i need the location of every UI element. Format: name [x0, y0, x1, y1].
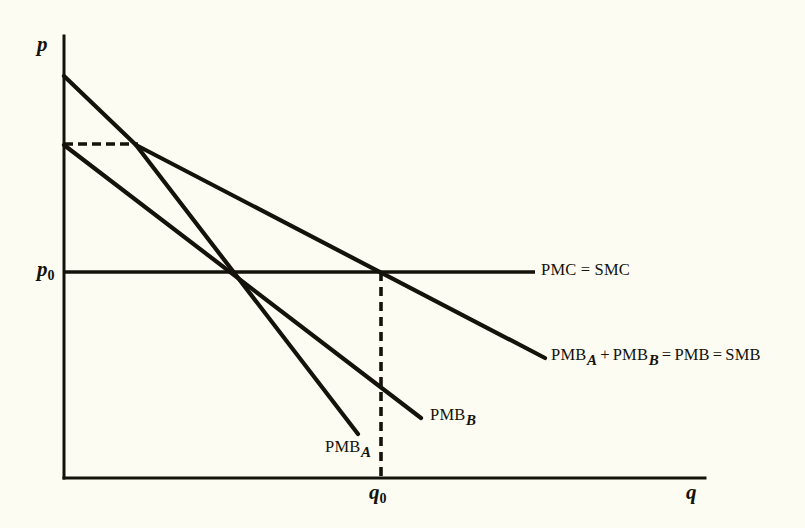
- pmb-a-main: PMB: [325, 437, 360, 456]
- curve-label-pmc-smc: PMC = SMC: [541, 262, 630, 279]
- q0-subscript: 0: [380, 491, 387, 506]
- sum-pmb-a-main: PMB: [551, 345, 586, 364]
- sum-smb-text: SMB: [725, 345, 760, 364]
- diagram-canvas: [0, 0, 805, 528]
- curve-label-pmb-a: PMBA: [325, 439, 371, 460]
- x-axis-label-text: q: [686, 480, 697, 504]
- p0-main: p: [37, 257, 48, 281]
- sum-equals-1: =: [659, 345, 675, 364]
- pmb-a-subscript: A: [360, 444, 371, 460]
- y-axis-label-text: p: [37, 32, 48, 56]
- curve-pmb-a: [136, 145, 358, 434]
- curve-label-pmb-b: PMBB: [430, 407, 476, 428]
- sum-pmb-b-main: PMB: [613, 345, 648, 364]
- x-axis-label: q: [686, 482, 697, 503]
- y-axis-label: p: [37, 34, 48, 55]
- q0-main: q: [369, 480, 380, 504]
- pmb-b-subscript: B: [465, 412, 476, 428]
- pmc-smc-text: PMC = SMC: [541, 260, 630, 279]
- sum-plus-operator: +: [597, 345, 613, 364]
- sum-pmb-b-subscript: B: [648, 352, 659, 368]
- p0-tick-label: p0: [37, 259, 55, 283]
- sum-equals-2: =: [710, 345, 726, 364]
- q0-tick-label: q0: [369, 482, 387, 506]
- public-good-diagram: p q p0 q0 PMC = SMC PMBA+PMBB=PMB=SMB PM…: [0, 0, 805, 528]
- pmb-b-main: PMB: [430, 405, 465, 424]
- sum-pmb-text: PMB: [674, 345, 709, 364]
- p0-subscript: 0: [48, 268, 55, 283]
- sum-pmb-a-subscript: A: [586, 352, 597, 368]
- curve-pmb-sum: [64, 76, 545, 358]
- curve-label-pmb-sum: PMBA+PMBB=PMB=SMB: [551, 347, 761, 368]
